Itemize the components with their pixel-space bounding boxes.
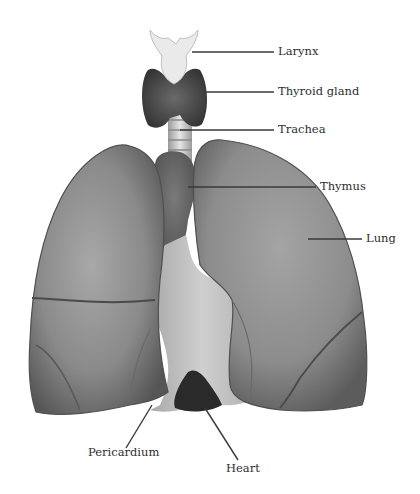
left-lung [29, 145, 168, 415]
respiratory-diagram [0, 0, 420, 494]
label-heart: Heart [226, 463, 260, 475]
leader-pericardium [126, 405, 152, 448]
label-lung: Lung [366, 233, 396, 245]
label-thymus: Thymus [320, 181, 366, 193]
label-larynx: Larynx [278, 46, 318, 58]
label-thyroid-gland: Thyroid gland [278, 86, 359, 98]
label-pericardium: Pericardium [88, 447, 159, 459]
leader-heart [205, 408, 238, 460]
label-trachea: Trachea [278, 124, 326, 136]
